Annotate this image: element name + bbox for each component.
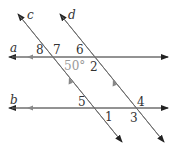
angle-label-2: 2 <box>90 60 98 74</box>
angle-label-7: 7 <box>53 43 61 57</box>
line-a <box>9 55 168 60</box>
angle-label-6: 6 <box>76 43 84 57</box>
line-label-b: b <box>10 93 18 107</box>
angle-label-5: 5 <box>78 95 86 109</box>
line-label-a: a <box>10 41 17 55</box>
parallel-mark-arrow-icon <box>27 106 33 111</box>
line-label-c: c <box>27 8 34 22</box>
line-label-d: d <box>68 8 76 22</box>
parallel-lines-diagram: a b c d 8 7 6 50° 2 5 1 4 3 <box>0 0 181 153</box>
parallel-mark-arrow-icon <box>27 55 33 60</box>
angle-label-given: 50° <box>64 59 85 73</box>
angle-label-1: 1 <box>105 110 113 124</box>
angle-label-8: 8 <box>36 43 44 57</box>
angle-label-3: 3 <box>130 111 138 125</box>
angle-label-4: 4 <box>137 95 145 109</box>
